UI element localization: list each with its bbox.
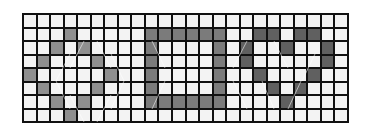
grid-cell-heart bbox=[322, 42, 334, 54]
grid-cell bbox=[281, 110, 293, 122]
grid-cell bbox=[105, 29, 117, 41]
grid-cell bbox=[119, 29, 131, 41]
grid-cell-heart bbox=[254, 69, 266, 81]
grid-cell bbox=[335, 15, 347, 27]
grid-cell-diamond bbox=[92, 83, 104, 95]
grid-cell bbox=[308, 15, 320, 27]
grid-cell bbox=[132, 56, 144, 68]
grid-cell bbox=[38, 15, 50, 27]
grid-cell bbox=[227, 110, 239, 122]
grid-cell-rectangle bbox=[146, 42, 158, 54]
grid-cell-rectangle bbox=[146, 69, 158, 81]
grid-cell bbox=[295, 110, 307, 122]
grid-cell bbox=[51, 15, 63, 27]
grid-cell bbox=[268, 42, 280, 54]
grid-cell-diamond bbox=[78, 42, 90, 54]
grid-cell bbox=[78, 15, 90, 27]
pixel-grid bbox=[22, 13, 349, 123]
grid-cell bbox=[241, 83, 253, 95]
grid-cell bbox=[105, 56, 117, 68]
grid-cell bbox=[227, 69, 239, 81]
grid-cell bbox=[295, 42, 307, 54]
grid-cell-heart bbox=[322, 56, 334, 68]
grid-cell bbox=[335, 42, 347, 54]
grid-cell-heart bbox=[281, 42, 293, 54]
grid-cell bbox=[105, 110, 117, 122]
grid-cell bbox=[254, 42, 266, 54]
grid-cell bbox=[92, 96, 104, 108]
grid-cell bbox=[241, 110, 253, 122]
grid-cell-heart bbox=[281, 96, 293, 108]
grid-cell bbox=[268, 110, 280, 122]
grid-cell bbox=[322, 15, 334, 27]
grid-cell bbox=[335, 69, 347, 81]
grid-cell bbox=[227, 42, 239, 54]
grid-cell bbox=[51, 69, 63, 81]
grid-cell bbox=[254, 15, 266, 27]
grid-cell bbox=[65, 83, 77, 95]
grid-cell bbox=[308, 56, 320, 68]
grid-cell bbox=[132, 83, 144, 95]
grid-cell-rectangle bbox=[159, 29, 171, 41]
grid-cell-rectangle bbox=[146, 96, 158, 108]
grid-cell bbox=[268, 69, 280, 81]
grid-cell bbox=[335, 96, 347, 108]
grid-cell-diamond bbox=[105, 69, 117, 81]
grid-cell bbox=[295, 69, 307, 81]
grid-cell bbox=[51, 110, 63, 122]
grid-cell bbox=[241, 96, 253, 108]
grid-cell bbox=[214, 15, 226, 27]
grid-cell bbox=[119, 56, 131, 68]
grid-cell bbox=[308, 42, 320, 54]
grid-cell bbox=[159, 69, 171, 81]
grid-cell-rectangle bbox=[187, 29, 199, 41]
grid-cell bbox=[119, 83, 131, 95]
grid-cell bbox=[268, 56, 280, 68]
grid-cell-heart bbox=[308, 29, 320, 41]
grid-cell-rectangle bbox=[146, 29, 158, 41]
grid-cell bbox=[227, 29, 239, 41]
grid-cell bbox=[24, 56, 36, 68]
grid-cell bbox=[173, 42, 185, 54]
grid-cell bbox=[254, 56, 266, 68]
grid-cell bbox=[322, 83, 334, 95]
grid-cell-diamond bbox=[38, 56, 50, 68]
grid-cell-rectangle bbox=[187, 96, 199, 108]
grid-cell bbox=[227, 83, 239, 95]
grid-cell-rectangle bbox=[214, 42, 226, 54]
grid-cell bbox=[268, 96, 280, 108]
grid-cell-heart bbox=[241, 42, 253, 54]
grid-cell-heart bbox=[254, 29, 266, 41]
grid-cell-heart bbox=[268, 83, 280, 95]
grid-cell bbox=[38, 69, 50, 81]
grid-cell bbox=[322, 69, 334, 81]
grid-cell-diamond bbox=[78, 96, 90, 108]
grid-cell bbox=[65, 96, 77, 108]
grid-cell bbox=[295, 96, 307, 108]
grid-cell-diamond bbox=[24, 69, 36, 81]
grid-cell bbox=[254, 110, 266, 122]
grid-cell bbox=[65, 42, 77, 54]
grid-cell bbox=[92, 15, 104, 27]
grid-cell bbox=[187, 69, 199, 81]
grid-cell bbox=[105, 83, 117, 95]
grid-cell bbox=[132, 69, 144, 81]
grid-cell bbox=[227, 56, 239, 68]
grid-cell-rectangle bbox=[214, 69, 226, 81]
grid-cell-rectangle bbox=[200, 29, 212, 41]
grid-cell bbox=[227, 15, 239, 27]
grid-cell bbox=[335, 83, 347, 95]
grid-cell bbox=[173, 83, 185, 95]
grid-cell-diamond bbox=[38, 83, 50, 95]
grid-cell bbox=[24, 83, 36, 95]
grid-cell bbox=[24, 29, 36, 41]
grid-cell-diamond bbox=[92, 56, 104, 68]
grid-cell bbox=[200, 56, 212, 68]
grid-cell bbox=[173, 15, 185, 27]
grid-cell-diamond bbox=[65, 110, 77, 122]
grid-cell bbox=[187, 56, 199, 68]
grid-cell bbox=[241, 69, 253, 81]
grid-cell bbox=[51, 83, 63, 95]
grid-cell-rectangle bbox=[159, 96, 171, 108]
grid-cell bbox=[146, 15, 158, 27]
